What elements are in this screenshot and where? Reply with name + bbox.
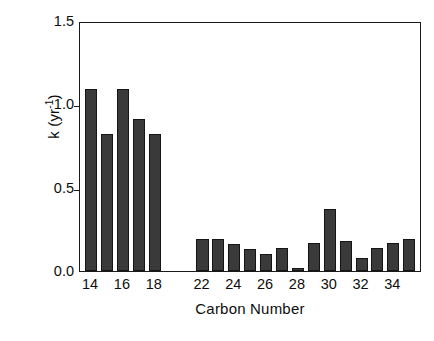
bar (244, 249, 256, 271)
x-axis-tick-label: 34 (372, 277, 412, 292)
bar (324, 209, 336, 271)
bar (260, 254, 272, 271)
x-axis-title: Carbon Number (79, 300, 421, 317)
y-axis-tick-mark (74, 190, 80, 191)
bar (133, 119, 145, 271)
bar (403, 239, 415, 271)
bar (356, 258, 368, 271)
bar (387, 243, 399, 271)
bar (308, 243, 320, 271)
bar (340, 241, 352, 271)
bar-chart-figure: k (yr-1) 0.00.51.01.5 141618222426283032… (0, 0, 434, 341)
plot-area (79, 22, 421, 272)
bar-series (80, 23, 420, 271)
x-axis-tick-labels: 14161822242628303234 (79, 277, 421, 299)
bar (85, 89, 97, 271)
bar (292, 268, 304, 271)
bar (117, 89, 129, 271)
x-axis-tick-label: 18 (134, 277, 174, 292)
bar (196, 239, 208, 271)
y-axis-tick-mark (74, 106, 80, 107)
y-axis-tick-label: 0.5 (40, 181, 74, 196)
bar (101, 134, 113, 271)
bar (371, 248, 383, 271)
y-axis-tick-label: 1.0 (40, 97, 74, 112)
y-axis-tick-label: 1.5 (40, 14, 74, 29)
bar (276, 248, 288, 271)
bar (212, 239, 224, 271)
figure-caption (0, 322, 434, 341)
y-axis-tick-labels: 0.00.51.01.5 (36, 0, 74, 341)
bar (228, 244, 240, 271)
y-axis-tick-label: 0.0 (40, 264, 74, 279)
bar (149, 134, 161, 271)
